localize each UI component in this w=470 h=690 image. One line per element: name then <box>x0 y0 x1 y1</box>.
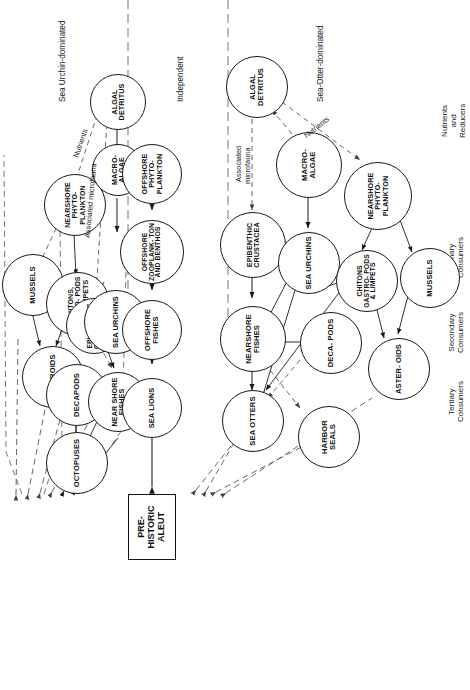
node-label: SEA URCHINS <box>305 234 313 291</box>
node-chitons-gastropods-limpets-otter[interactable]: CHITONS GASTRO- PODS & LIMPETS <box>336 250 398 312</box>
band-label-sea-otter-dominated: Sea-Otter-dominated <box>316 26 325 102</box>
node-label: HARBOR SEALS <box>321 407 336 467</box>
node-label: CHITONS GASTRO- PODS & LIMPETS <box>357 251 378 311</box>
node-nearshore-phytoplankton-otter[interactable]: NEARSHORE PHYTO- PLANKTON <box>344 162 412 230</box>
node-sea-lions[interactable]: SEA LIONS <box>122 378 182 438</box>
node-label: SEA URCHINS <box>112 294 120 350</box>
node-decapods-otter[interactable]: DECA- PODS <box>300 312 362 374</box>
node-offshore-phytoplankton[interactable]: OFFSHORE PHYTO- PLANKTON <box>122 144 182 204</box>
figure-canvas: PRE-HISTORIC ALEUT Sea Urchin-dominated … <box>0 0 470 690</box>
food-web-diagram: PRE-HISTORIC ALEUT Sea Urchin-dominated … <box>0 0 470 690</box>
trophic-label-tertiary: Tertiary Consumers <box>448 381 466 422</box>
node-label: OFFSHORE FISHES <box>144 301 159 359</box>
node-algal-detritus-otter[interactable]: ALGAL DETRITUS <box>226 56 288 118</box>
node-label: ASTER- OIDS <box>395 342 403 396</box>
node-harbor-seals[interactable]: HARBOR SEALS <box>298 406 360 468</box>
node-label: NEARSHORE PHYTO- PLANKTON <box>64 175 85 235</box>
node-label: MUSSELS <box>29 264 37 305</box>
trophic-nutrients-line3: Reducers <box>459 104 468 138</box>
node-label: OFFSHORE PHYTO- PLANKTON <box>141 145 163 203</box>
node-algal-detritus-urchin[interactable]: ALGAL DETRITUS <box>90 74 146 130</box>
band-label-sea-urchin-dominated: Sea Urchin-dominated <box>58 21 67 102</box>
node-offshore-fishes[interactable]: OFFSHORE FISHES <box>122 300 182 360</box>
node-label: ALGAL DETRITUS <box>111 75 126 129</box>
node-label: MUSSELS <box>426 257 434 298</box>
prehistoric-aleut-box: PRE-HISTORIC ALEUT <box>128 494 176 560</box>
node-mussels-otter[interactable]: MUSSELS <box>400 248 460 308</box>
node-label: MACRO- ALGAE <box>301 133 316 197</box>
node-label: NEARSHORE PHYTO- PLANKTON <box>367 163 389 229</box>
node-octopuses-urchin[interactable]: OCTOPUSES <box>46 432 108 494</box>
node-label: OFFSHORE ZOOPLANK- TON AND BENTHOS <box>142 221 163 283</box>
trophic-tertiary-line2: Consumers <box>457 381 466 422</box>
edge-label-associated-microfauna-bottom-1: Associated <box>234 146 243 182</box>
trophic-secondary-line2: Consumers <box>457 312 466 353</box>
node-epibenthic-crustacea-otter[interactable]: EPIBENTHIC CRUSTACEA <box>220 212 286 278</box>
edge-label-associated-microfauna-bottom-2: microfauna <box>243 147 252 184</box>
node-sea-otters[interactable]: SEA OTTERS <box>222 390 284 452</box>
node-label: SEA LIONS <box>148 386 156 430</box>
node-nearshore-fishes-otter[interactable]: NEARSHORE FISHES <box>220 306 286 372</box>
node-label: EPIBENTHIC CRUSTACEA <box>246 213 261 277</box>
node-label: NEARSHORE FISHES <box>245 307 260 371</box>
node-sea-urchins-otter[interactable]: SEA URCHINS <box>278 232 340 294</box>
node-label: DECAPODS <box>73 371 81 419</box>
node-label: OCTOPUSES <box>73 437 81 489</box>
node-label: ALGAL DETRITUS <box>249 57 264 117</box>
node-label: SEA OTTERS <box>249 394 257 447</box>
node-label: DECA- PODS <box>327 317 335 370</box>
node-asteroids-otter[interactable]: ASTER- OIDS <box>368 338 430 400</box>
prehistoric-aleut-label: PRE-HISTORIC ALEUT <box>137 495 166 559</box>
band-label-independent: Independent <box>176 56 185 102</box>
trophic-label-secondary: Secondary Consumers <box>448 312 466 353</box>
node-macroalgae-otter[interactable]: MACRO- ALGAE <box>276 132 342 198</box>
trophic-label-nutrients-reducers: Nutrients and Reducers <box>441 104 468 138</box>
node-offshore-zooplankton-benthos[interactable]: OFFSHORE ZOOPLANK- TON AND BENTHOS <box>120 220 184 284</box>
